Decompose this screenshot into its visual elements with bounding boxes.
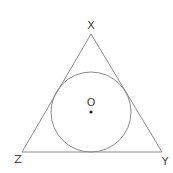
center-point-o bbox=[89, 110, 92, 113]
vertex-label-z: Z bbox=[14, 153, 22, 166]
geometry-diagram: X Y Z O bbox=[0, 0, 173, 173]
triangle-xyz bbox=[22, 34, 162, 152]
vertex-label-x: X bbox=[87, 19, 95, 32]
center-label-o: O bbox=[87, 96, 96, 109]
vertex-label-y: Y bbox=[161, 155, 169, 168]
